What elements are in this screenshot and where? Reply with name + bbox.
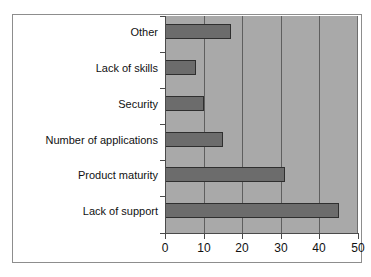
x-axis-line: [165, 233, 359, 234]
x-tick-label-0: 0: [152, 241, 178, 255]
x-tick-label-40: 40: [306, 241, 332, 255]
x-tick-10: [204, 234, 205, 239]
bar-product-maturity[interactable]: [165, 167, 285, 182]
bar-security[interactable]: [165, 96, 204, 111]
bar-lack-of-support[interactable]: [165, 203, 339, 218]
bar-number-of-applications[interactable]: [165, 132, 223, 147]
gridline-40: [319, 16, 320, 233]
x-tick-20: [242, 234, 243, 239]
gridline-20: [242, 16, 243, 233]
x-tick-label-30: 30: [268, 241, 294, 255]
x-tick-50: [358, 234, 359, 239]
category-label-number-of-applications: Number of applications: [12, 134, 158, 146]
category-label-other: Other: [12, 26, 158, 38]
category-label-product-maturity: Product maturity: [12, 169, 158, 181]
gridline-30: [281, 16, 282, 233]
x-tick-40: [319, 234, 320, 239]
x-tick-label-10: 10: [191, 241, 217, 255]
gridline-10: [204, 16, 205, 233]
plot-area: [165, 16, 358, 233]
category-label-security: Security: [12, 98, 158, 110]
bar-chart-figure: Other Lack of skills Security Number of …: [0, 0, 371, 277]
x-tick-label-20: 20: [229, 241, 255, 255]
x-tick-label-50: 50: [345, 241, 371, 255]
bar-lack-of-skills[interactable]: [165, 60, 196, 75]
bar-other[interactable]: [165, 24, 231, 39]
category-label-lack-of-support: Lack of support: [12, 205, 158, 217]
category-label-lack-of-skills: Lack of skills: [12, 62, 158, 74]
category-axis-labels: Other Lack of skills Security Number of …: [14, 16, 162, 233]
x-tick-0: [165, 234, 166, 239]
x-tick-30: [281, 234, 282, 239]
y-axis-line: [165, 16, 166, 234]
